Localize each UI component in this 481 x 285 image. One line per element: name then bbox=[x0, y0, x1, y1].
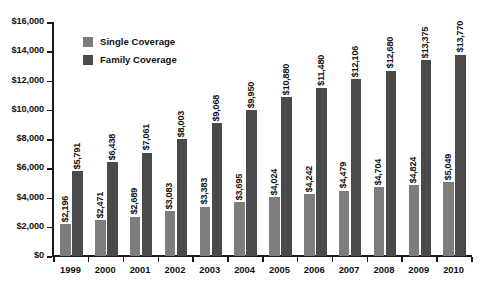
bar-value-label: $4,704 bbox=[374, 159, 383, 185]
bar-value-label: $10,880 bbox=[282, 64, 291, 95]
bar-value-label: $9,068 bbox=[212, 95, 221, 121]
y-axis-tick: $16,000 bbox=[0, 22, 52, 23]
bar-single-2005[interactable] bbox=[269, 197, 280, 256]
bar-single-2004[interactable] bbox=[234, 202, 245, 256]
x-axis-label-2007: 2007 bbox=[332, 264, 367, 275]
x-axis-label-2009: 2009 bbox=[401, 264, 436, 275]
y-axis-tick: $2,000 bbox=[0, 227, 52, 228]
x-axis-label-2010: 2010 bbox=[436, 264, 471, 275]
bar-single-2006[interactable] bbox=[304, 194, 315, 256]
bar-value-label: $3,695 bbox=[235, 174, 244, 200]
y-axis-tick-label: $2,000 bbox=[16, 221, 44, 231]
bar-value-label: $13,770 bbox=[456, 21, 465, 52]
y-axis-tick-mark bbox=[47, 256, 52, 258]
x-axis-label-2003: 2003 bbox=[192, 264, 227, 275]
bar-single-2007[interactable] bbox=[339, 191, 350, 257]
bar-value-label: $11,480 bbox=[317, 55, 326, 86]
bar-value-label: $2,471 bbox=[96, 192, 105, 218]
y-axis-tick-label: $6,000 bbox=[16, 162, 44, 172]
bar-family-2010[interactable] bbox=[455, 55, 466, 256]
bar-value-label: $13,375 bbox=[421, 27, 430, 58]
x-axis-label-2004: 2004 bbox=[227, 264, 262, 275]
bar-single-2009[interactable] bbox=[409, 185, 420, 256]
x-axis-tick-mark bbox=[192, 257, 194, 262]
x-axis-tick-mark bbox=[436, 257, 438, 262]
legend-item-single[interactable]: Single Coverage bbox=[83, 36, 177, 47]
chart-title bbox=[0, 0, 481, 1]
y-axis-tick: $8,000 bbox=[0, 139, 52, 140]
bar-value-label: $9,950 bbox=[247, 82, 256, 108]
y-axis-tick-label: $0 bbox=[34, 250, 44, 260]
x-axis-tick-mark bbox=[88, 257, 90, 262]
y-axis-tick-mark bbox=[47, 51, 52, 53]
y-axis-tick: $12,000 bbox=[0, 81, 52, 82]
bar-single-2003[interactable] bbox=[200, 207, 211, 256]
x-axis-tick-mark bbox=[53, 257, 55, 262]
x-axis-label-2001: 2001 bbox=[123, 264, 158, 275]
bar-single-2008[interactable] bbox=[374, 187, 385, 256]
bar-single-2002[interactable] bbox=[165, 211, 176, 256]
y-axis-tick-label: $8,000 bbox=[16, 133, 44, 143]
x-axis-tick-mark bbox=[297, 257, 299, 262]
y-axis-tick-label: $12,000 bbox=[11, 75, 44, 85]
bar-value-label: $2,689 bbox=[130, 188, 139, 214]
bar-value-label: $5,049 bbox=[444, 154, 453, 180]
bar-family-2000[interactable] bbox=[107, 162, 118, 256]
bar-value-label: $4,242 bbox=[305, 166, 314, 192]
bar-family-2003[interactable] bbox=[212, 123, 223, 256]
bar-value-label: $12,680 bbox=[386, 37, 395, 68]
y-axis-tick-mark bbox=[47, 22, 52, 24]
legend-item-family[interactable]: Family Coverage bbox=[83, 54, 177, 65]
bar-chart: $0$2,000$4,000$6,000$8,000$10,000$12,000… bbox=[0, 0, 481, 285]
x-axis-label-2002: 2002 bbox=[158, 264, 193, 275]
bar-single-2010[interactable] bbox=[443, 182, 454, 256]
y-axis-tick: $6,000 bbox=[0, 168, 52, 169]
bar-family-1999[interactable] bbox=[72, 171, 83, 256]
bar-family-2004[interactable] bbox=[246, 110, 257, 256]
bar-value-label: $8,003 bbox=[177, 111, 186, 137]
x-axis-tick-mark bbox=[471, 257, 473, 262]
x-axis-tick-mark bbox=[332, 257, 334, 262]
legend-label-family-coverage: Family Coverage bbox=[100, 54, 177, 65]
x-axis-tick-mark bbox=[401, 257, 403, 262]
bar-value-label: $6,438 bbox=[108, 134, 117, 160]
bar-value-label: $4,824 bbox=[409, 157, 418, 183]
bar-single-2001[interactable] bbox=[130, 217, 141, 256]
y-axis-tick-mark bbox=[47, 227, 52, 229]
x-axis-label-2006: 2006 bbox=[297, 264, 332, 275]
bar-single-1999[interactable] bbox=[60, 224, 71, 256]
bar-value-label: $7,061 bbox=[142, 124, 151, 150]
x-axis-tick-mark bbox=[367, 257, 369, 262]
y-axis-tick-mark bbox=[47, 139, 52, 141]
y-axis-tick-label: $4,000 bbox=[16, 192, 44, 202]
y-axis-tick-label: $14,000 bbox=[11, 45, 44, 55]
legend-swatch-single-coverage bbox=[83, 37, 93, 47]
legend-swatch-family-coverage bbox=[83, 55, 93, 65]
chart-legend: Single Coverage Family Coverage bbox=[83, 36, 177, 72]
x-axis-tick-mark bbox=[123, 257, 125, 262]
bar-family-2001[interactable] bbox=[142, 153, 153, 256]
x-axis-tick-mark bbox=[227, 257, 229, 262]
bar-single-2000[interactable] bbox=[95, 220, 106, 256]
bar-family-2002[interactable] bbox=[177, 139, 188, 256]
y-axis-tick-mark bbox=[47, 198, 52, 200]
x-axis-tick-mark bbox=[262, 257, 264, 262]
bar-value-label: $3,083 bbox=[165, 183, 174, 209]
y-axis-tick: $4,000 bbox=[0, 198, 52, 199]
y-axis-tick-mark bbox=[47, 81, 52, 83]
x-axis-tick-mark bbox=[158, 257, 160, 262]
x-axis-label-2008: 2008 bbox=[367, 264, 402, 275]
bar-family-2006[interactable] bbox=[316, 88, 327, 256]
bar-family-2008[interactable] bbox=[386, 71, 397, 256]
legend-label-single-coverage: Single Coverage bbox=[100, 36, 175, 47]
y-axis-tick: $14,000 bbox=[0, 51, 52, 52]
bar-family-2005[interactable] bbox=[281, 97, 292, 256]
bar-family-2007[interactable] bbox=[351, 79, 362, 256]
y-axis-tick: $10,000 bbox=[0, 110, 52, 111]
bar-value-label: $4,479 bbox=[339, 162, 348, 188]
bar-family-2009[interactable] bbox=[421, 60, 432, 256]
bar-value-label: $12,106 bbox=[351, 46, 360, 77]
y-axis-tick-label: $10,000 bbox=[11, 104, 44, 114]
x-axis-label-2000: 2000 bbox=[88, 264, 123, 275]
y-axis-tick-mark bbox=[47, 110, 52, 112]
